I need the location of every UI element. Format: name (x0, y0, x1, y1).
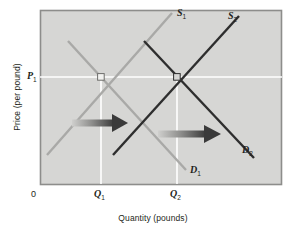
curve-label-d1-subscript: 1 (197, 170, 201, 177)
curve-label-s1: S1 (177, 7, 186, 20)
tick-q1-subscript: 1 (101, 194, 105, 201)
x-axis-tick-zero: 0 (31, 189, 36, 199)
chart-plot-area (0, 0, 290, 234)
curve-label-s1-subscript: 1 (183, 13, 187, 20)
curve-label-s2: S2 (228, 10, 237, 23)
curve-label-d2-subscript: 2 (249, 150, 253, 157)
x-axis-tick-q2: Q2 (170, 188, 181, 201)
supply-demand-chart: Price (per pound) Quantity (pounds) 0 Q1… (0, 0, 290, 234)
curve-label-d1: D1 (190, 164, 201, 177)
y-axis-title: Price (per pound) (12, 41, 22, 153)
x-axis-title: Quantity (pounds) (78, 213, 228, 223)
tick-p1-subscript: 1 (33, 76, 37, 83)
plot-background (41, 11, 282, 185)
x-axis-tick-q1: Q1 (94, 188, 105, 201)
equilibrium-point-e2 (174, 74, 181, 81)
tick-q2-subscript: 2 (177, 194, 181, 201)
equilibrium-point-e1 (98, 74, 105, 81)
curve-label-s2-subscript: 2 (234, 16, 238, 23)
y-axis-tick-p1: P1 (27, 70, 37, 83)
curve-label-d2: D2 (242, 144, 253, 157)
